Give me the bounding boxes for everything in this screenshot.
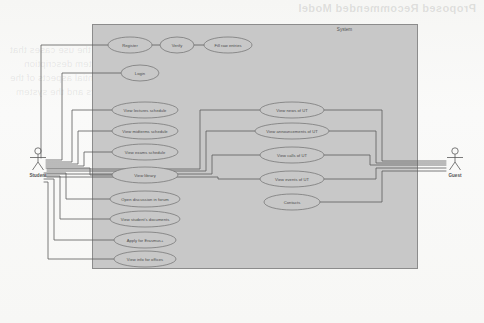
use-case-view-calls-of-ut[interactable] xyxy=(260,147,324,163)
diagram-canvas xyxy=(0,0,484,323)
use-case-view-events-of-ut[interactable] xyxy=(260,171,324,187)
use-case-fill-raw-entries[interactable] xyxy=(204,37,252,53)
use-case-diagram: SystemRegisterVerifyFill raw entriesLogi… xyxy=(0,0,484,323)
use-case-view-announcements-of-ut[interactable] xyxy=(255,123,329,139)
use-case-contacts[interactable] xyxy=(264,194,320,210)
actor-leg-left-icon xyxy=(33,162,39,170)
actor-head-icon xyxy=(35,148,41,154)
actor-head-icon xyxy=(452,148,458,154)
use-case-view-news-of-ut[interactable] xyxy=(260,102,324,118)
actor-leg-left-icon xyxy=(450,162,456,170)
use-case-open-discussion-in-forum[interactable] xyxy=(110,191,180,207)
use-case-register[interactable] xyxy=(108,37,152,53)
use-case-view-midterms-schedule[interactable] xyxy=(112,123,178,139)
actor-student[interactable] xyxy=(30,148,46,170)
use-case-apply-for-erasmus[interactable] xyxy=(114,232,176,248)
actor-leg-right-icon xyxy=(38,162,44,170)
use-case-verify[interactable] xyxy=(160,37,194,53)
actor-guest[interactable] xyxy=(447,148,463,170)
use-case-login[interactable] xyxy=(121,65,159,81)
use-case-view-info-for-offices[interactable] xyxy=(114,251,176,267)
use-case-view-lectures-schedule[interactable] xyxy=(112,102,178,118)
actor-leg-right-icon xyxy=(455,162,461,170)
use-case-view-students-documents[interactable] xyxy=(110,211,180,227)
use-case-view-library[interactable] xyxy=(112,167,178,183)
use-case-view-exams-schedule[interactable] xyxy=(112,144,178,160)
